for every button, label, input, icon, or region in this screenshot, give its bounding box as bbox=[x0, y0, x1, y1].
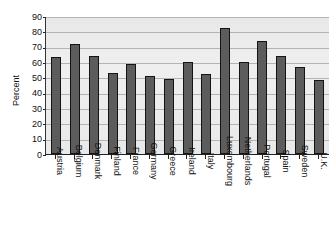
x-label-slot: U.K. bbox=[309, 161, 328, 235]
x-label-slot: Austria bbox=[46, 161, 65, 235]
bar-greece bbox=[164, 79, 174, 154]
x-label-slot: Portugal bbox=[253, 161, 272, 235]
bar-slot bbox=[272, 17, 291, 154]
bars-layer bbox=[46, 17, 329, 154]
bar-denmark bbox=[89, 56, 99, 154]
y-tick-label: 80 bbox=[32, 28, 42, 37]
bar-slot bbox=[291, 17, 310, 154]
y-tick-label: 20 bbox=[32, 120, 42, 129]
x-label-slot: Netherlands bbox=[234, 161, 253, 235]
bar-finland bbox=[108, 73, 118, 154]
x-tick-label-text: U.K. bbox=[319, 152, 329, 170]
x-label-slot: Greece bbox=[159, 161, 178, 235]
bar-slot bbox=[309, 17, 328, 154]
bar-spain bbox=[276, 56, 286, 154]
bar-slot bbox=[159, 17, 178, 154]
bar-slot bbox=[178, 17, 197, 154]
y-tick-label: 30 bbox=[32, 105, 42, 114]
plot-area bbox=[45, 17, 329, 155]
bar-slot bbox=[234, 17, 253, 154]
bar-sweden bbox=[295, 67, 305, 154]
bar-slot bbox=[66, 17, 85, 154]
y-axis-title: Percent bbox=[9, 40, 23, 140]
bar-chart-figure: Percent 9080706050403020100 AustriaBelgi… bbox=[0, 0, 336, 238]
bar-slot bbox=[103, 17, 122, 154]
y-tick-label: 70 bbox=[32, 43, 42, 52]
bar-ireland bbox=[183, 62, 193, 154]
y-tick-label: 40 bbox=[32, 89, 42, 98]
bar-slot bbox=[122, 17, 141, 154]
y-tick-label: 60 bbox=[32, 59, 42, 68]
x-label-slot: Finland bbox=[102, 161, 121, 235]
y-tick-label: 90 bbox=[32, 13, 42, 22]
y-tick-label: 10 bbox=[32, 135, 42, 144]
bar-slot bbox=[216, 17, 235, 154]
y-tick-label: 0 bbox=[37, 151, 42, 160]
x-axis-tick-labels: AustriaBelgiumDenmarkFinlandFranceGerman… bbox=[45, 161, 329, 235]
x-label-slot: Belgium bbox=[65, 161, 84, 235]
bar-u-k bbox=[314, 80, 324, 154]
bar-slot bbox=[197, 17, 216, 154]
x-label-slot: Luxembourg bbox=[215, 161, 234, 235]
bar-austria bbox=[51, 57, 61, 154]
bar-portugal bbox=[257, 41, 267, 154]
bar-slot bbox=[253, 17, 272, 154]
x-label-slot: Spain bbox=[272, 161, 291, 235]
x-label-slot: Germany bbox=[140, 161, 159, 235]
x-label-slot: Italy bbox=[196, 161, 215, 235]
x-label-slot: Ireland bbox=[178, 161, 197, 235]
x-label-slot: Denmark bbox=[84, 161, 103, 235]
bar-france bbox=[126, 64, 136, 154]
y-axis-tick-labels: 9080706050403020100 bbox=[22, 12, 42, 160]
bar-italy bbox=[201, 74, 211, 154]
x-tick-label: U.K. bbox=[319, 152, 329, 170]
bar-slot bbox=[84, 17, 103, 154]
bar-belgium bbox=[70, 44, 80, 154]
x-label-slot: France bbox=[121, 161, 140, 235]
x-label-slot: Sweden bbox=[290, 161, 309, 235]
bar-slot bbox=[47, 17, 66, 154]
y-tick-label: 50 bbox=[32, 74, 42, 83]
bar-slot bbox=[141, 17, 160, 154]
